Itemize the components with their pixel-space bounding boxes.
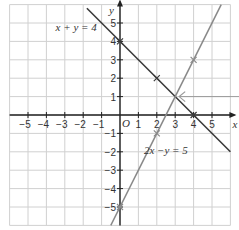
y-tick-label: 3 — [110, 55, 116, 66]
y-axis-arrow-icon — [117, 0, 123, 7]
x-tick-label: 5 — [209, 119, 215, 130]
y-tick-label: −3 — [105, 165, 117, 176]
y-tick-label: 5 — [110, 18, 116, 29]
origin-label: O — [122, 117, 130, 129]
y-tick-label: −4 — [105, 184, 117, 195]
y-tick-label: −1 — [105, 128, 117, 139]
x-axis-label: x — [231, 118, 237, 130]
y-axis-label: y — [108, 4, 114, 16]
x-tick-label: −4 — [38, 119, 50, 130]
x-tick-label: 4 — [191, 119, 197, 130]
x-tick-label: −3 — [56, 119, 68, 130]
coordinate-plot: −5−4−3−2−11234554321−1−2−3−4−5xyOx + y =… — [0, 0, 239, 230]
equation-label-line2: 2x −y = 5 — [144, 144, 188, 156]
x-tick-label: 1 — [136, 119, 142, 130]
x-tick-label: −2 — [74, 119, 86, 130]
y-tick-label: −5 — [105, 202, 117, 213]
x-tick-label: −5 — [19, 119, 31, 130]
x-tick-label: −1 — [93, 119, 105, 130]
x-tick-label: 3 — [172, 119, 178, 130]
equation-label-line1: x + y = 4 — [55, 21, 98, 33]
y-tick-label: −2 — [105, 147, 117, 158]
y-tick-label: 2 — [110, 73, 116, 84]
y-tick-label: 1 — [110, 92, 116, 103]
